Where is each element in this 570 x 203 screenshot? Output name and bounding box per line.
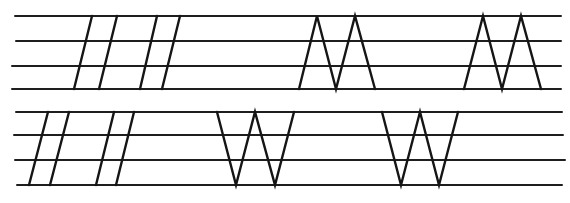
slanted-stroke xyxy=(29,112,48,185)
m-shape-1 xyxy=(299,16,375,89)
slanted-stroke xyxy=(162,16,180,89)
lower-letter-forms xyxy=(217,112,458,185)
upper-slanted-strokes xyxy=(74,16,180,89)
slanted-stroke xyxy=(99,16,117,89)
lower-row xyxy=(14,112,565,185)
slanted-stroke xyxy=(96,112,114,185)
slanted-stroke xyxy=(116,112,134,185)
w-shape-1 xyxy=(217,112,294,185)
w-shape-2 xyxy=(382,112,458,185)
slanted-stroke xyxy=(50,112,69,185)
upper-staff-lines xyxy=(12,16,561,89)
lower-staff-lines xyxy=(14,112,565,185)
slanted-stroke xyxy=(140,16,157,89)
m-shape-2 xyxy=(464,16,541,89)
lower-slanted-strokes xyxy=(29,112,134,185)
upper-row xyxy=(12,16,561,89)
handwriting-guide-diagram xyxy=(0,0,570,203)
slanted-stroke xyxy=(74,16,92,89)
upper-letter-forms xyxy=(299,16,541,89)
